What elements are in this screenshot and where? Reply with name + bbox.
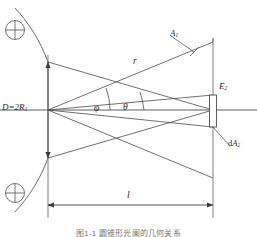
source-area-tick — [190, 47, 199, 56]
crossed-circle-top-icon — [6, 21, 25, 40]
angle-phi-label: φ — [94, 104, 99, 114]
ray-bottom-edge-to-detector — [48, 110, 213, 158]
ray-vertex-to-lower-plane — [48, 110, 213, 178]
figure-caption: 图1-1 圆锥形光阑的几何关系 — [0, 227, 257, 237]
optical-geometry-diagram — [0, 0, 257, 237]
angle-theta-label: θ — [123, 103, 128, 113]
detector-element-rect — [210, 95, 217, 127]
ray-vertex-to-detector-lower — [48, 110, 213, 127]
irradiance-label: E2 — [219, 82, 227, 92]
detector-area-label: dA2 — [228, 139, 240, 148]
aperture-diameter-label: D=2R1 — [2, 103, 27, 113]
ray-vertex-to-upper-plane — [48, 42, 213, 110]
crossed-circle-bottom-icon — [6, 184, 25, 203]
ray-length-label: r — [133, 57, 137, 67]
source-arc-top — [15, 8, 48, 62]
figure-container: D=2R1 r A1 φ θ E2 dA2 l 图1-1 圆锥形光阑的几何关系 — [0, 0, 257, 237]
source-area-label: A1 — [170, 29, 178, 39]
angle-phi-arc — [106, 88, 110, 110]
distance-label: l — [127, 190, 130, 200]
